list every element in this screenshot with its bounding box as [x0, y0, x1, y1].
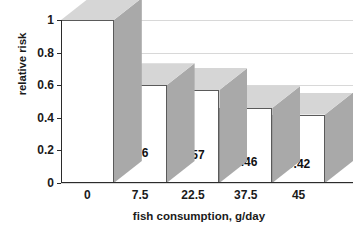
y-tick-mark	[57, 118, 61, 119]
y-tick-mark	[57, 85, 61, 86]
y-tick-mark	[57, 20, 61, 21]
bar-chart: relative risk fish consumption, g/day 0.…	[0, 0, 359, 234]
y-tick-label: 0.4	[37, 111, 54, 125]
x-tick-label: 22.5	[167, 188, 220, 202]
y-tick-mark	[57, 53, 61, 54]
y-axis-title: relative risk	[16, 9, 28, 119]
x-tick-label: 7.5	[114, 188, 167, 202]
bar	[61, 20, 353, 183]
x-axis-title: fish consumption, g/day	[56, 210, 342, 222]
y-tick-mark	[57, 150, 61, 151]
gridline	[61, 183, 353, 184]
y-tick-label: 0.2	[37, 143, 54, 157]
bar-side-face	[114, 0, 142, 183]
x-tick-label: 0	[61, 188, 114, 202]
bar-front-face	[61, 20, 114, 183]
y-axis-line	[61, 20, 62, 183]
y-tick-mark	[57, 183, 61, 184]
x-tick-label: 37.5	[219, 188, 272, 202]
y-tick-label: 0	[47, 176, 54, 190]
x-tick-label: 45	[272, 188, 325, 202]
y-tick-label: 0.8	[37, 46, 54, 60]
plot-area: 0.420.460.570.6 00.20.40.60.81 07.522.53…	[61, 20, 353, 183]
x-axis-line	[61, 182, 353, 183]
y-tick-label: 0.6	[37, 78, 54, 92]
y-tick-label: 1	[47, 13, 54, 27]
